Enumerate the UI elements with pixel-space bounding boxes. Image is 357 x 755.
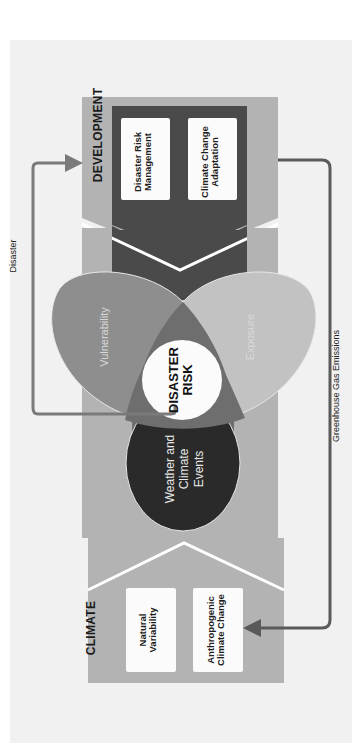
weather-climate-events-label: Weather and Climate Events: [163, 429, 207, 509]
disaster-arrow-label: Disaster: [9, 231, 21, 281]
cca-label: Climate Change Adaptation: [200, 122, 224, 202]
vulnerability-label: Vulnerability: [98, 292, 112, 382]
climate-title: CLIMATE: [85, 598, 101, 658]
anthropogenic-label: Anthropogenic Climate Change: [206, 588, 230, 672]
development-title: DEVELOPMENT: [92, 85, 108, 185]
disaster-risk-label: DISASTER RISK: [167, 340, 197, 420]
natural-variability-label: Natural Variability: [138, 590, 162, 670]
drm-label: Disaster Risk Management: [133, 122, 157, 202]
exposure-label: Exposure: [244, 302, 258, 372]
ghg-arrow-label: Greenhouse Gas Emissions: [332, 326, 344, 446]
